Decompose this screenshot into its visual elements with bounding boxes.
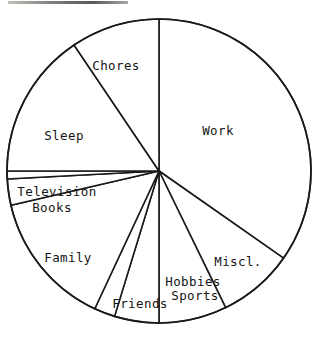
pie-slice-label-television: Television (17, 185, 96, 199)
pie-slice-label-sports: Sports (171, 289, 219, 303)
pie-slice-label-family: Family (44, 251, 92, 265)
pie-slice-label-books: Books (32, 201, 72, 215)
pie-slice-group (7, 19, 311, 323)
pie-slice-label-chores: Chores (92, 59, 140, 73)
pie-slice-label-sleep: Sleep (44, 129, 84, 143)
pie-chart-canvas (0, 0, 318, 340)
pie-slice-label-hobbies: Hobbies (165, 275, 220, 289)
pie-slice-label-work: Work (202, 124, 234, 138)
pie-slice-label-miscl: Miscl. (214, 255, 262, 269)
pie-chart: WorkMiscl.SportsHobbiesFriendsFamilyBook… (0, 0, 318, 340)
pie-slice-label-friends: Friends (112, 297, 167, 311)
